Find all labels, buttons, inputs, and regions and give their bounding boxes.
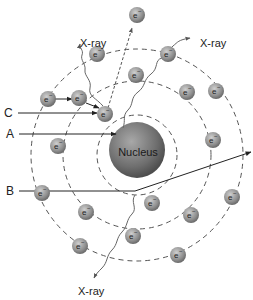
xray-wave-top-right bbox=[123, 38, 190, 128]
svg-text:−: − bbox=[80, 91, 84, 97]
svg-text:−: − bbox=[137, 68, 141, 74]
svg-text:−: − bbox=[134, 229, 138, 235]
svg-text:−: − bbox=[169, 47, 173, 53]
electron: e− bbox=[40, 91, 56, 107]
svg-text:−: − bbox=[153, 196, 157, 202]
label-c: C bbox=[4, 107, 13, 119]
svg-text:−: − bbox=[214, 133, 218, 139]
label-b: B bbox=[6, 185, 14, 197]
xray-label-bottom: X-ray bbox=[78, 286, 104, 297]
electron: e− bbox=[179, 84, 195, 100]
label-a: A bbox=[6, 128, 14, 140]
svg-text:−: − bbox=[179, 248, 183, 254]
electron: e− bbox=[144, 195, 160, 211]
svg-text:−: − bbox=[188, 85, 192, 91]
svg-text:−: − bbox=[87, 205, 91, 211]
electron: e− bbox=[129, 7, 145, 23]
electron: e− bbox=[97, 106, 113, 122]
electron: e− bbox=[208, 83, 224, 99]
svg-text:−: − bbox=[138, 8, 142, 14]
xray-label-top-right: X-ray bbox=[200, 38, 226, 49]
nucleus-label: Nucleus bbox=[111, 146, 165, 158]
electron: e− bbox=[125, 228, 141, 244]
electron: e− bbox=[34, 185, 50, 201]
svg-text:−: − bbox=[233, 190, 237, 196]
svg-text:−: − bbox=[217, 84, 221, 90]
xray-label-top-left: X-ray bbox=[80, 38, 106, 49]
svg-text:−: − bbox=[43, 186, 47, 192]
electron: e− bbox=[224, 189, 240, 205]
electron: e− bbox=[183, 207, 199, 223]
electron: e− bbox=[205, 132, 221, 148]
electron: e− bbox=[78, 204, 94, 220]
svg-text:−: − bbox=[59, 139, 63, 145]
electron: e− bbox=[50, 138, 66, 154]
electron: e− bbox=[170, 247, 186, 263]
electron: e− bbox=[160, 46, 176, 62]
electron: e− bbox=[71, 90, 87, 106]
svg-text:−: − bbox=[106, 107, 110, 113]
svg-text:−: − bbox=[49, 92, 53, 98]
electron: e− bbox=[128, 67, 144, 83]
electron: e− bbox=[72, 238, 88, 254]
ejection-path bbox=[108, 28, 132, 108]
transition-arrow-2 bbox=[86, 103, 99, 108]
svg-text:−: − bbox=[192, 208, 196, 214]
svg-text:−: − bbox=[81, 239, 85, 245]
